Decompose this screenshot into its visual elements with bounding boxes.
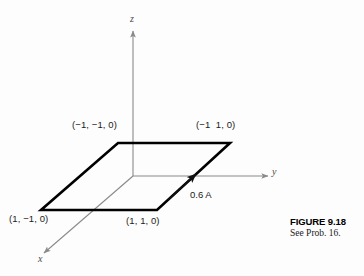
current-value-label: 0.6 A	[190, 189, 212, 200]
figure-caption-subtitle: See Prob. 16.	[290, 228, 364, 238]
figure-caption: FIGURE 9.18 See Prob. 16.	[290, 216, 364, 238]
y-axis-label: y	[272, 166, 276, 177]
x-axis	[44, 176, 133, 253]
vertex-label-bottom-right: (1, 1, 0)	[126, 215, 160, 226]
vertex-label-top-right: (−1 1, 0)	[196, 119, 235, 130]
x-axis-label: x	[38, 253, 42, 264]
figure-caption-title: FIGURE 9.18	[290, 216, 364, 227]
vertex-label-top-left: (−1, −1, 0)	[72, 119, 117, 130]
vertex-label-bottom-left: (1, −1, 0)	[9, 213, 48, 224]
figure-container: z y x (−1, −1, 0) (−1 1, 0) (1, −1, 0) (…	[0, 0, 364, 276]
z-axis-label: z	[130, 13, 134, 24]
